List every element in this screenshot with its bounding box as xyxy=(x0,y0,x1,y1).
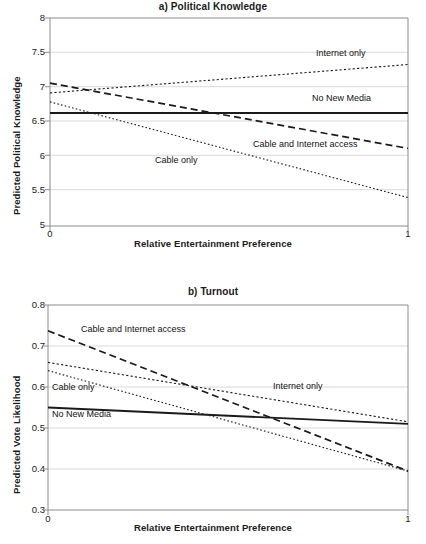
panel-b-label-cable-only: Cable only xyxy=(52,382,95,392)
panel-b-line-cable-and-internet xyxy=(48,331,408,471)
panel-a-gridlines xyxy=(50,52,408,189)
panel-b-axis-frame xyxy=(48,305,408,510)
panel-a-label-internet-only: Internet only xyxy=(316,48,366,58)
panel-b-plot xyxy=(0,272,426,544)
panel-a-line-internet-only xyxy=(50,65,408,93)
panel-b-label-internet-only: Internet only xyxy=(273,381,323,391)
panel-b-series xyxy=(48,331,408,471)
panel-a-series xyxy=(50,65,408,198)
panel-a-label-no-new-media: No New Media xyxy=(312,93,371,103)
panel-turnout: b) Turnout Predicted Vote Likelihood Rel… xyxy=(0,272,426,544)
panel-b-label-no-new-media: No New Media xyxy=(52,409,111,419)
panel-b-label-cable-and-internet: Cable and Internet access xyxy=(81,324,186,334)
panel-a-label-cable-and-internet: Cable and Internet access xyxy=(253,139,358,149)
panel-b-gridlines xyxy=(48,346,408,469)
panel-a-plot xyxy=(0,0,426,272)
panel-a-label-cable-only: Cable only xyxy=(155,155,198,165)
figure-two-panel-chart: a) Political Knowledge Predicted Politic… xyxy=(0,0,426,544)
panel-political-knowledge: a) Political Knowledge Predicted Politic… xyxy=(0,0,426,272)
